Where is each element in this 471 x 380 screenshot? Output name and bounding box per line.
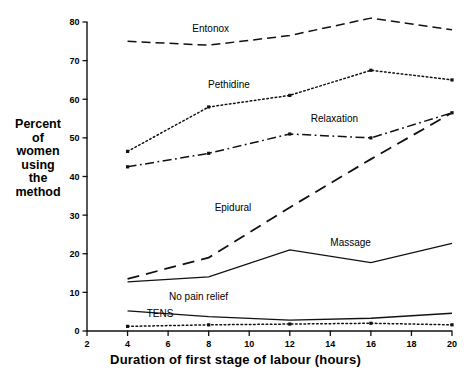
data-point xyxy=(288,132,291,135)
series-label-entonox: Entonox xyxy=(192,23,229,34)
data-point xyxy=(126,325,129,328)
y-axis-tick-label: 20 xyxy=(69,249,79,259)
data-point xyxy=(450,78,453,81)
data-point xyxy=(207,152,210,155)
series-label-massage: Massage xyxy=(330,237,371,248)
y-axis-title: Percentofwomenusingthemethod xyxy=(2,118,74,200)
y-axis-title-line: women xyxy=(2,145,74,159)
x-axis-tick-label: 14 xyxy=(325,339,335,349)
series-line-entonox xyxy=(128,18,452,45)
series-labels: EntonoxPethidineRelaxationEpiduralMassag… xyxy=(147,23,372,319)
series-label-epidural: Epidural xyxy=(215,202,252,213)
series-line-no-pain-relief xyxy=(128,311,452,320)
y-axis-title-line: Percent xyxy=(2,118,74,132)
data-point xyxy=(126,150,129,153)
data-point xyxy=(207,105,210,108)
x-axis-tick-label: 8 xyxy=(206,339,211,349)
data-point xyxy=(207,323,210,326)
data-point xyxy=(450,323,453,326)
data-point xyxy=(288,322,291,325)
data-point xyxy=(288,94,291,97)
y-axis-title-line: using xyxy=(2,159,74,173)
x-axis-tick-label: 16 xyxy=(366,339,376,349)
y-axis-tick-label: 70 xyxy=(69,56,79,66)
axes: 010203040506070802468101214161820 xyxy=(69,17,457,349)
y-axis-tick-label: 80 xyxy=(69,17,79,27)
series-line-pethidine xyxy=(128,70,452,151)
x-axis-tick-label: 20 xyxy=(447,339,457,349)
x-axis-tick-label: 6 xyxy=(166,339,171,349)
y-axis-tick-label: 0 xyxy=(74,326,79,336)
data-point xyxy=(369,322,372,325)
x-axis-tick-label: 18 xyxy=(406,339,416,349)
series-label-tens: TENS xyxy=(147,308,174,319)
y-axis-title-line: the xyxy=(2,172,74,186)
data-point xyxy=(126,165,129,168)
y-axis-tick-label: 60 xyxy=(69,95,79,105)
chart-figure: Percentofwomenusingthemethod Duration of… xyxy=(0,0,471,380)
data-series xyxy=(126,18,454,328)
y-axis-title-line: method xyxy=(2,186,74,200)
x-axis-title: Duration of first stage of labour (hours… xyxy=(0,352,471,367)
x-axis-tick-label: 2 xyxy=(84,339,89,349)
x-axis-tick-label: 12 xyxy=(285,339,295,349)
y-axis-title-line: of xyxy=(2,132,74,146)
data-point xyxy=(369,136,372,139)
x-axis-tick-label: 4 xyxy=(125,339,130,349)
y-axis-tick-label: 10 xyxy=(69,288,79,298)
series-label-relaxation: Relaxation xyxy=(311,113,358,124)
data-point xyxy=(369,69,372,72)
series-line-epidural xyxy=(128,113,452,279)
series-label-pethidine: Pethidine xyxy=(208,79,250,90)
x-axis-tick-label: 10 xyxy=(244,339,254,349)
series-label-no-pain-relief: No pain relief xyxy=(169,291,228,302)
y-axis-tick-label: 30 xyxy=(69,211,79,221)
series-line-massage xyxy=(128,243,452,282)
